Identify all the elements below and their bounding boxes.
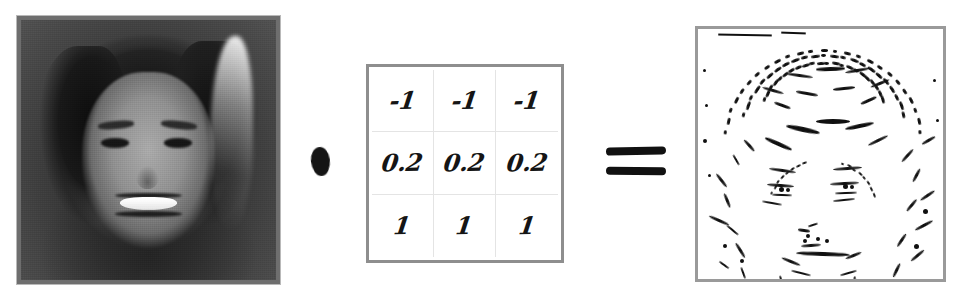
edge-arc-segment — [782, 61, 790, 68]
kernel-cell-r2c1: 1 — [434, 195, 496, 257]
kernel-value: 0.2 — [380, 148, 424, 178]
edge-arc-segment — [733, 97, 738, 104]
kernel-cell-r0c2: -1 — [496, 70, 558, 132]
output-edge-pixels — [698, 29, 943, 279]
edge-arc-segment — [894, 94, 900, 102]
edge-stroke — [774, 101, 791, 109]
edge-speck — [723, 244, 727, 248]
edge-arc-segment — [919, 130, 922, 134]
equals-bar-bottom — [606, 167, 666, 176]
edge-arc-segment — [766, 71, 774, 79]
edge-stroke — [816, 119, 850, 124]
edge-arc-segment — [872, 192, 875, 197]
edge-arc-segment — [800, 55, 808, 60]
edge-stroke — [860, 96, 877, 105]
edge-stroke — [798, 228, 810, 232]
edge-arc-segment — [850, 58, 860, 64]
edge-arc-segment — [877, 64, 883, 69]
edge-arc-segment — [881, 95, 886, 103]
input-photo — [17, 16, 280, 284]
edge-stroke — [868, 134, 889, 146]
edge-arc-segment — [796, 164, 801, 168]
edge-arc-segment — [866, 181, 870, 186]
edge-arc-segment — [785, 54, 791, 58]
edge-speck — [933, 79, 936, 82]
edge-arc-segment — [821, 49, 828, 52]
kernel-grid: -1 -1 -1 0.2 0.2 0.2 1 — [372, 70, 558, 257]
edge-arc-segment — [832, 49, 837, 52]
edge-stroke — [901, 148, 915, 163]
kernel-cell-r1c0: 0.2 — [372, 132, 434, 194]
edge-stroke — [715, 173, 728, 188]
edge-arc-segment — [887, 71, 893, 77]
edge-arc-segment — [903, 88, 908, 94]
edge-arc-segment — [796, 51, 803, 55]
edge-stroke — [765, 136, 793, 151]
edge-stroke — [781, 31, 806, 34]
edge-arc-segment — [723, 130, 726, 134]
kernel-cell-r1c2: 0.2 — [496, 132, 558, 194]
kernel-value: -1 — [450, 86, 480, 116]
edge-stroke — [771, 194, 791, 197]
edge-stroke — [796, 90, 818, 96]
convolution-figure: -1 -1 -1 0.2 0.2 0.2 1 — [0, 0, 959, 298]
kernel-frame: -1 -1 -1 0.2 0.2 0.2 1 — [366, 64, 564, 263]
edge-arc-segment — [726, 118, 730, 125]
edge-arc-segment — [875, 72, 883, 80]
edge-speck — [703, 139, 707, 143]
kernel-cell-r0c0: -1 — [372, 70, 434, 132]
equals-bar-top — [606, 146, 666, 155]
edge-arc-segment — [889, 85, 896, 94]
edge-arc-segment — [862, 176, 866, 181]
edge-arc-segment — [808, 49, 813, 52]
edge-arc-segment — [779, 276, 782, 279]
edge-stroke — [786, 123, 820, 135]
kernel-value: 0.2 — [442, 148, 486, 178]
edge-speck — [850, 185, 854, 189]
edge-arc-segment — [810, 54, 819, 58]
edge-stroke — [905, 199, 916, 212]
edge-stroke — [845, 121, 875, 131]
edge-arc-segment — [746, 79, 752, 86]
edge-stroke — [801, 243, 821, 247]
edge-stroke — [762, 200, 782, 206]
edge-arc-segment — [773, 66, 782, 73]
edge-speck — [779, 187, 784, 192]
kernel-cell-r0c1: -1 — [434, 70, 496, 132]
edge-speck — [703, 69, 706, 72]
kernel-value: -1 — [388, 86, 418, 116]
edge-speck — [936, 119, 939, 122]
convolution-dot-icon — [311, 147, 330, 176]
edge-arc-segment — [824, 61, 829, 64]
edge-speck — [803, 239, 807, 243]
edge-arc-segment — [918, 118, 922, 125]
edge-stroke — [723, 193, 731, 208]
edge-arc-segment — [870, 186, 874, 191]
kernel-value: 0.2 — [505, 148, 549, 178]
photo-film-grain — [21, 20, 276, 280]
kernel-value: -1 — [512, 86, 542, 116]
kernel-cell-r2c2: 1 — [496, 195, 558, 257]
edge-arc-segment — [909, 97, 914, 104]
edge-stroke — [892, 263, 901, 277]
output-edge-map — [695, 26, 946, 282]
edge-stroke — [816, 66, 845, 71]
edge-stroke — [808, 223, 818, 228]
input-photo-pixels — [21, 20, 276, 280]
edge-arc-segment — [914, 108, 918, 114]
edge-stroke — [919, 189, 935, 201]
edge-stroke — [921, 136, 935, 146]
edge-stroke — [896, 233, 906, 247]
edge-arc-segment — [898, 101, 904, 110]
edge-stroke — [835, 191, 857, 194]
edge-stroke — [732, 154, 740, 166]
edge-arc-segment — [856, 54, 862, 58]
edge-arc-segment — [759, 78, 766, 86]
edge-speck — [708, 174, 711, 177]
equals-sign-icon — [606, 145, 668, 178]
edge-arc-segment — [728, 108, 732, 113]
edge-speck — [914, 244, 919, 249]
edge-speck — [705, 104, 708, 107]
edge-arc-segment — [791, 58, 800, 64]
edge-arc-segment — [748, 94, 754, 101]
